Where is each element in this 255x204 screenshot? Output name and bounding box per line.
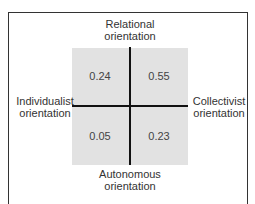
axis-label-bottom-line1: Autonomous — [98, 168, 162, 180]
quadrant-top-right-value: 0.55 — [139, 70, 179, 82]
quadrant-bottom-left-value: 0.05 — [80, 130, 120, 142]
axis-label-right-line1: Collectivist — [188, 95, 250, 107]
axis-label-left-line2: orientation — [12, 107, 78, 119]
axis-label-top: Relational orientation — [100, 18, 160, 42]
axis-label-bottom: Autonomous orientation — [98, 168, 162, 192]
horizontal-axis-line — [72, 105, 188, 107]
axis-label-right: Collectivist orientation — [188, 95, 250, 119]
quadrant-top-left-value: 0.24 — [80, 70, 120, 82]
axis-label-left: Individualist orientation — [12, 95, 78, 119]
quadrant-bottom-right-value: 0.23 — [139, 130, 179, 142]
axis-label-top-line1: Relational — [100, 18, 160, 30]
axis-label-left-line1: Individualist — [12, 95, 78, 107]
axis-label-right-line2: orientation — [188, 107, 250, 119]
axis-label-bottom-line2: orientation — [98, 180, 162, 192]
axis-label-top-line2: orientation — [100, 30, 160, 42]
